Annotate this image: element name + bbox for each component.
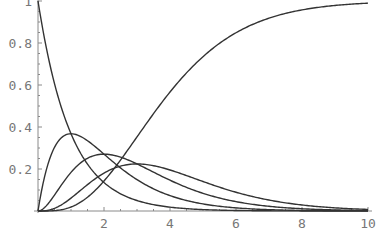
x-tick-label: 8 <box>298 216 306 231</box>
y-tick-label: 0.2 <box>9 162 32 177</box>
x-tick-label: 10 <box>360 216 376 231</box>
x-tick-label: 2 <box>100 216 108 231</box>
curves <box>38 1 368 211</box>
x-tick-label: 6 <box>232 216 240 231</box>
line-chart: 246810 0.20.40.60.81 <box>0 0 378 236</box>
x-tick-label: 4 <box>166 216 174 231</box>
y-tick-label: 0.6 <box>9 78 32 93</box>
y-ticks: 0.20.40.60.81 <box>9 0 42 201</box>
y-tick-label: 0.4 <box>9 120 33 135</box>
curve-cumulative <box>38 3 368 211</box>
y-tick-label: 0.8 <box>9 36 32 51</box>
curve-exp <box>38 1 368 211</box>
y-tick-label: 1 <box>24 0 32 9</box>
curve-t-exp <box>38 134 368 211</box>
curve-t2-exp <box>38 154 368 211</box>
